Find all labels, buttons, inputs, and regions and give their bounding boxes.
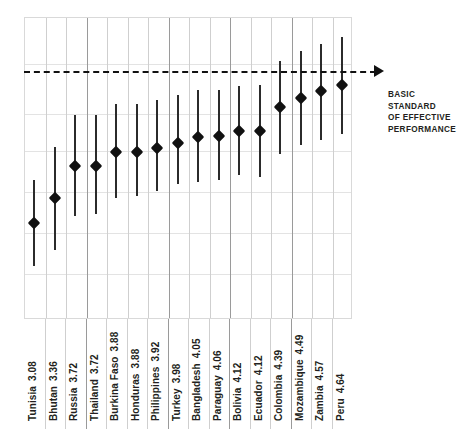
label-gridline-vertical-13 <box>291 319 292 429</box>
category-label-mozambique: Mozambique4.49 <box>294 335 305 421</box>
category-label-turkey: Turkey3.98 <box>171 363 182 421</box>
category-name: Bolivia <box>232 388 243 422</box>
category-name: Bhutan <box>48 386 59 421</box>
data-point-marker <box>212 130 225 143</box>
category-label-tunisia: Tunisia3.08 <box>27 361 38 421</box>
category-label-paraguay: Paraguay4.06 <box>212 350 223 421</box>
category-value: 4.06 <box>212 350 223 370</box>
reference-line <box>24 71 376 73</box>
category-value: 4.57 <box>314 361 325 381</box>
reference-line-annotation: BASIC STANDARD OF EFFECTIVE PERFORMANCE <box>388 89 456 136</box>
label-gridline-vertical-5 <box>127 319 128 429</box>
category-label-zambia: Zambia4.57 <box>314 361 325 422</box>
category-name: Philippines <box>150 367 161 421</box>
data-point-marker <box>233 124 246 137</box>
label-gridline-vertical-12 <box>270 319 271 429</box>
label-gridline-vertical-11 <box>250 319 251 429</box>
category-label-honduras: Honduras3.88 <box>130 349 141 421</box>
data-point-marker <box>151 142 164 155</box>
category-label-bhutan: Bhutan3.36 <box>48 361 59 421</box>
category-value: 3.88 <box>109 332 120 352</box>
category-name: Tunisia <box>27 386 38 421</box>
category-name: Thailand <box>89 379 100 421</box>
data-point-marker <box>335 78 348 91</box>
category-label-thailand: Thailand3.72 <box>89 354 100 421</box>
category-label-russia: Russia3.72 <box>68 363 79 421</box>
label-gridline-vertical-1 <box>45 319 46 429</box>
label-gridline-vertical-3 <box>86 319 87 429</box>
category-value: 3.72 <box>89 354 100 374</box>
category-label-ecuador: Ecuador4.12 <box>253 355 264 421</box>
label-gridline-vertical-15 <box>332 319 333 429</box>
category-value: 3.88 <box>130 349 141 369</box>
data-point-marker <box>110 146 123 159</box>
data-series-layer <box>24 17 352 319</box>
chart-container: BASIC STANDARD OF EFFECTIVE PERFORMANCE … <box>0 0 466 448</box>
label-gridline-vertical-14 <box>311 319 312 429</box>
data-point-marker <box>48 192 61 205</box>
label-gridline-vertical-10 <box>229 319 230 429</box>
category-name: Zambia <box>314 385 325 421</box>
category-name: Paraguay <box>212 375 223 421</box>
label-gridline-vertical-9 <box>209 319 210 429</box>
category-value: 3.98 <box>171 363 182 383</box>
category-label-area: Tunisia3.08Bhutan3.36Russia3.72Thailand3… <box>24 319 352 429</box>
label-gridline-vertical-2 <box>65 319 66 429</box>
category-value: 3.72 <box>68 363 79 383</box>
label-gridline-vertical-8 <box>188 319 189 429</box>
data-point-marker <box>294 91 307 104</box>
category-label-burkina-faso: Burkina Faso3.88 <box>109 332 120 421</box>
data-point-marker <box>253 124 266 137</box>
category-label-bolivia: Bolivia4.12 <box>232 363 243 421</box>
category-name: Burkina Faso <box>109 356 120 421</box>
data-point-marker <box>89 160 102 173</box>
data-point-marker <box>171 137 184 150</box>
data-point-marker <box>192 131 205 144</box>
category-name: Russia <box>68 388 79 421</box>
category-value: 3.08 <box>27 361 38 381</box>
category-value: 4.12 <box>232 363 243 383</box>
category-name: Ecuador <box>253 380 264 421</box>
label-gridline-vertical-6 <box>147 319 148 429</box>
category-name: Peru <box>335 398 346 421</box>
data-point-marker <box>130 146 143 159</box>
category-label-bangladesh: Bangladesh4.05 <box>191 338 202 421</box>
category-value: 4.49 <box>294 335 305 355</box>
category-value: 3.92 <box>150 342 161 362</box>
data-point-marker <box>28 217 41 230</box>
category-name: Colombia <box>273 375 284 421</box>
category-name: Turkey <box>171 388 182 421</box>
category-value: 4.12 <box>253 355 264 375</box>
data-point-marker <box>69 160 82 173</box>
category-value: 4.05 <box>191 338 202 358</box>
category-name: Bangladesh <box>191 363 202 421</box>
category-value: 3.36 <box>48 361 59 381</box>
category-name: Mozambique <box>294 359 305 421</box>
arrow-right-icon <box>374 65 384 77</box>
category-label-peru: Peru4.64 <box>335 373 346 421</box>
category-value: 4.39 <box>273 350 284 370</box>
category-name: Honduras <box>130 374 141 421</box>
category-value: 4.64 <box>335 373 346 393</box>
category-label-philippines: Philippines3.92 <box>150 342 161 421</box>
label-gridline-vertical-4 <box>106 319 107 429</box>
category-label-colombia: Colombia4.39 <box>273 350 284 421</box>
data-point-marker <box>274 100 287 113</box>
data-point-marker <box>315 84 328 97</box>
label-gridline-vertical-7 <box>168 319 169 429</box>
